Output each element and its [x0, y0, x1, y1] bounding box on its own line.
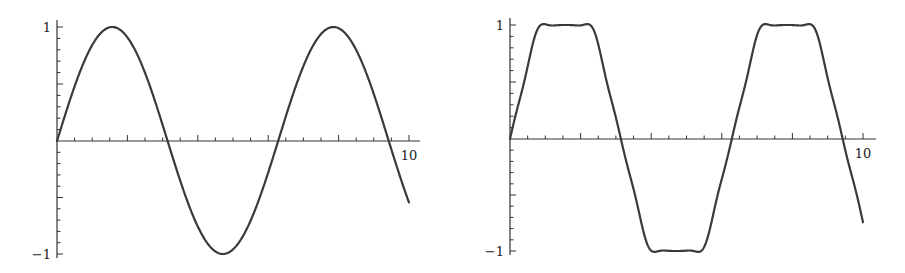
x-tick-label-10: 10 — [855, 146, 872, 161]
y-tick-label-1: 1 — [43, 20, 51, 35]
trapezoid-plot-canvas: 10 1 −1 — [450, 0, 905, 273]
y-tick-label-neg1: −1 — [485, 244, 504, 259]
y-tick-label-neg1: −1 — [32, 247, 51, 262]
sine-plot-canvas: 10 1 −1 — [0, 0, 450, 273]
sine-wave-chart: 10 1 −1 — [0, 0, 450, 273]
axes — [57, 20, 420, 258]
x-tick-label-10: 10 — [401, 148, 418, 163]
y-tick-label-1: 1 — [496, 18, 504, 33]
trapezoid-wave-chart: 10 1 −1 — [450, 0, 905, 273]
